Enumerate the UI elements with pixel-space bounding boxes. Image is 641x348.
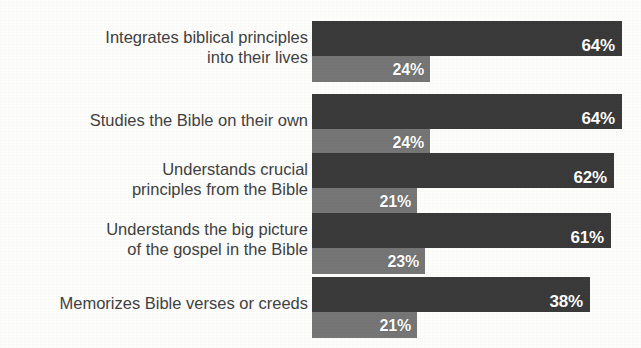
bar-value-label: 64% [582, 110, 615, 127]
bar-pair: 62% 21% [312, 153, 614, 214]
category-label: Memorizes Bible verses or creeds [60, 294, 309, 314]
bar-value-label: 21% [380, 318, 411, 334]
bar-secondary[interactable]: 21% [312, 312, 417, 338]
bar-pair: 61% 23% [312, 213, 611, 274]
bar-chart-plot-area: Integrates biblical principles into thei… [0, 0, 641, 348]
bar-secondary[interactable]: 24% [312, 56, 430, 82]
bar-value-label: 21% [380, 194, 411, 210]
chart-container: Integrates biblical principles into thei… [0, 0, 641, 348]
bar-value-label: 61% [571, 229, 604, 246]
category-label: Studies the Bible on their own [90, 111, 308, 131]
bar-primary[interactable]: 38% [312, 277, 590, 312]
bar-pair: 38% 21% [312, 277, 590, 338]
bar-primary[interactable]: 64% [312, 94, 622, 129]
category-label: Integrates biblical principles into thei… [105, 28, 308, 67]
category-label: Understands crucial principles from the … [132, 160, 308, 199]
bar-value-label: 24% [393, 62, 424, 78]
bar-value-label: 38% [550, 293, 583, 310]
bar-secondary[interactable]: 24% [312, 129, 430, 155]
bar-primary[interactable]: 62% [312, 153, 614, 188]
category-label: Understands the big picture of the gospe… [106, 220, 308, 259]
bar-pair: 64% 24% [312, 94, 622, 155]
bar-pair: 64% 24% [312, 21, 622, 82]
bar-secondary[interactable]: 23% [312, 248, 425, 274]
bar-value-label: 64% [582, 37, 615, 54]
bar-secondary[interactable]: 21% [312, 188, 417, 214]
bar-value-label: 24% [393, 135, 424, 151]
bar-primary[interactable]: 64% [312, 21, 622, 56]
bar-value-label: 23% [388, 254, 419, 270]
bar-value-label: 62% [574, 169, 607, 186]
bar-primary[interactable]: 61% [312, 213, 611, 248]
